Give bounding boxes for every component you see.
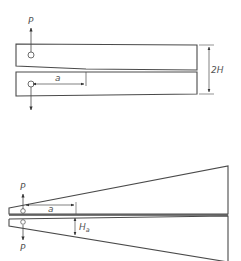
label-crack-length-tapered: a <box>48 204 54 214</box>
label-arm-height: Ha <box>79 222 90 234</box>
label-crack-length-top: a <box>55 73 61 83</box>
label-load-top: P <box>28 16 34 26</box>
tapered-dcb-figure <box>9 166 228 261</box>
label-load-top-tapered: P <box>20 182 26 192</box>
tapered-lower-arm <box>9 216 228 261</box>
pin-hole-bottom-tapered <box>21 220 26 225</box>
tapered-upper-arm <box>9 166 228 214</box>
uniform-dcb-figure <box>16 28 214 110</box>
label-load-bottom-tapered: P <box>20 243 26 253</box>
dcb-diagram: P a 2H P P a Ha <box>0 0 241 261</box>
pin-hole-top-tapered <box>21 209 26 214</box>
label-height: 2H <box>211 65 224 75</box>
upper-arm <box>16 44 197 70</box>
label-arm-height-subscript: a <box>86 226 90 234</box>
pin-hole-top <box>28 52 34 58</box>
